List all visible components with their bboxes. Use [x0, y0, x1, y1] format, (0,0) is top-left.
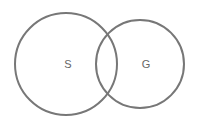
set-s-label: S — [64, 58, 71, 70]
set-g-label: G — [142, 58, 151, 70]
set-g-circle — [96, 20, 184, 108]
venn-diagram: S G — [0, 0, 198, 118]
